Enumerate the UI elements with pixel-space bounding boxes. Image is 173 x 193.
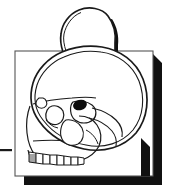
skull-illustration-svg: [0, 0, 173, 193]
nasal-aperture: [46, 106, 64, 125]
figure-root: Lateral skull illustration with cranial …: [0, 0, 173, 193]
tooth: [57, 155, 64, 165]
left-scale-tick: [0, 149, 12, 151]
nasion-loop: [36, 98, 47, 108]
tooth: [78, 157, 84, 165]
tooth: [71, 157, 78, 165]
tooth: [43, 154, 50, 164]
tooth: [36, 153, 43, 164]
tooth: [64, 156, 71, 165]
tooth: [50, 155, 57, 165]
